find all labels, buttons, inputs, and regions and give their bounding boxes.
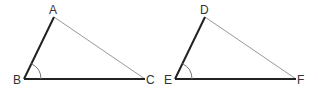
angle-b-arc [31, 64, 41, 79]
diagram-canvas: A B C D E F [0, 0, 318, 91]
side-df [205, 17, 296, 79]
vertex-label-f: F [297, 73, 304, 87]
vertex-label-e: E [164, 73, 172, 87]
triangle-def: D E F [164, 3, 304, 87]
vertex-label-c: C [146, 73, 155, 87]
side-ac [54, 17, 145, 79]
vertex-label-b: B [13, 73, 21, 87]
vertex-label-d: D [200, 3, 209, 17]
angle-e-arc [182, 64, 192, 79]
triangle-abc: A B C [13, 3, 155, 87]
vertex-label-a: A [49, 3, 57, 17]
